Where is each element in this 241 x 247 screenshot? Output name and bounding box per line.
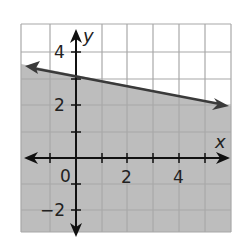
coordinate-plane: y x 4 2 −2 0 2 4 [0,0,241,247]
y-axis-label: y [82,25,94,46]
y-tick-label-4: 4 [54,42,65,62]
origin-label: 0 [60,166,71,186]
y-tick-label-2: 2 [54,95,65,115]
x-axis-label: x [214,131,226,152]
y-tick-label-neg2: −2 [40,200,65,220]
x-tick-label-2: 2 [121,167,132,187]
x-tick-label-4: 4 [173,167,184,187]
